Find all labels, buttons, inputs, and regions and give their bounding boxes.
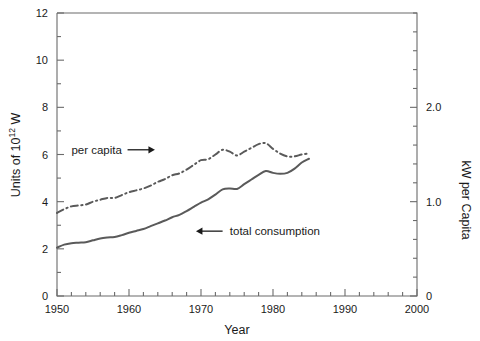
- left-tick-label: 4: [42, 196, 48, 208]
- left-tick-label: 8: [42, 101, 48, 113]
- left-tick-label: 12: [36, 7, 48, 19]
- right-tick-label: 1.0: [426, 196, 441, 208]
- annotation-label-per-capita: per capita: [71, 144, 122, 156]
- bottom-tick-label: 2000: [405, 303, 429, 315]
- right-tick-label: 0: [426, 290, 432, 302]
- left-tick-label: 0: [42, 290, 48, 302]
- left-tick-label: 6: [42, 149, 48, 161]
- chart-background: [0, 0, 480, 341]
- y-axis-left-title: Units of 1012 W: [7, 113, 23, 198]
- x-axis-title: Year: [224, 323, 249, 337]
- bottom-tick-label: 1990: [333, 303, 357, 315]
- bottom-tick-label: 1980: [261, 303, 285, 315]
- y-axis-right-title: kW per Capita: [459, 160, 473, 239]
- energy-consumption-line-chart: 024681012 01.02.0 1950196019701980199020…: [0, 0, 480, 341]
- right-tick-label: 2.0: [426, 101, 441, 113]
- left-tick-label: 2: [42, 243, 48, 255]
- bottom-tick-label: 1960: [117, 303, 141, 315]
- annotation-label-total-consumption: total consumption: [230, 225, 320, 237]
- bottom-tick-label: 1950: [45, 303, 69, 315]
- chart-figure: 024681012 01.02.0 1950196019701980199020…: [0, 0, 480, 341]
- bottom-tick-label: 1970: [189, 303, 213, 315]
- left-tick-label: 10: [36, 54, 48, 66]
